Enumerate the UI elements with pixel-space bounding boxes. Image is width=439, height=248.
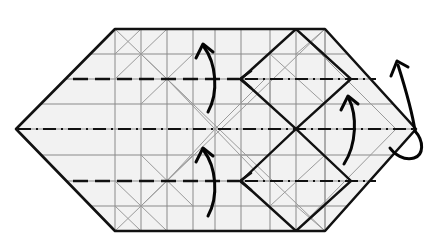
origami-diagram-root: Origami crease pattern — hexagonal base … [0,0,439,248]
origami-crease-pattern-figure: Origami crease pattern — hexagonal base … [0,0,439,248]
